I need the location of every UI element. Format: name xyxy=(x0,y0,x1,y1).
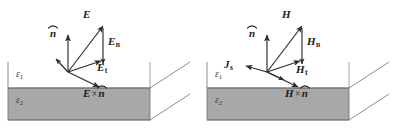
label-E-tangential: Et xyxy=(97,62,107,73)
depth-line-top xyxy=(150,62,190,88)
label-lower-medium: ε2 xyxy=(16,96,23,106)
figure-root: E n En Et E× n ε1 xyxy=(0,0,398,130)
label-H-cross-n: H× n xyxy=(285,88,308,100)
label-upper-medium: ε1 xyxy=(16,70,23,80)
label-J-s: Js xyxy=(224,59,233,70)
lower-medium-face xyxy=(207,88,349,120)
label-H: H xyxy=(282,9,291,20)
depth-line-top xyxy=(349,62,389,88)
label-E: E xyxy=(83,9,91,20)
label-lower-medium: ε2 xyxy=(215,96,222,106)
electric-field-panel: E n En Et E× n ε1 xyxy=(0,0,199,130)
magnetic-field-panel: H n Hn Ht Js H× n xyxy=(199,0,398,130)
depth-line-bottom xyxy=(150,94,190,120)
vector-bundle xyxy=(56,26,103,87)
depth-line-bottom xyxy=(349,94,389,120)
label-E-normal: En xyxy=(108,36,120,47)
label-H-tangential: Ht xyxy=(296,64,307,75)
vector-stub xyxy=(56,59,68,72)
label-E-cross-n: E× n xyxy=(83,88,105,100)
label-n-hat: n xyxy=(249,28,255,39)
label-n-hat: n xyxy=(50,28,56,39)
label-H-normal: Hn xyxy=(307,36,320,47)
label-upper-medium: ε1 xyxy=(215,70,222,80)
lower-medium-face xyxy=(8,88,150,120)
vector-E-cross-n xyxy=(68,72,99,87)
vector-stub xyxy=(267,72,284,80)
vector-J-s xyxy=(246,66,267,72)
